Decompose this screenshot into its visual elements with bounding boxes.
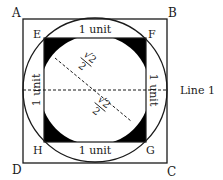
vertex-H: H: [33, 144, 43, 157]
vertex-B: B: [168, 6, 177, 20]
vertex-G: G: [146, 144, 155, 157]
vertex-F: F: [148, 28, 156, 41]
side-label-right: 1 unit: [147, 74, 160, 107]
line-1-label: Line 1: [180, 84, 215, 97]
vertex-E: E: [33, 28, 41, 41]
side-label-top: 1 unit: [79, 23, 112, 36]
side-label-left: 1 unit: [30, 73, 43, 106]
vertex-D: D: [12, 163, 22, 177]
vertex-A: A: [11, 6, 21, 20]
geometry-diagram: A B C D E F G H 1 unit 1 unit 1 unit 1 u…: [0, 0, 223, 180]
side-label-bottom: 1 unit: [79, 144, 112, 157]
vertex-C: C: [167, 165, 176, 179]
